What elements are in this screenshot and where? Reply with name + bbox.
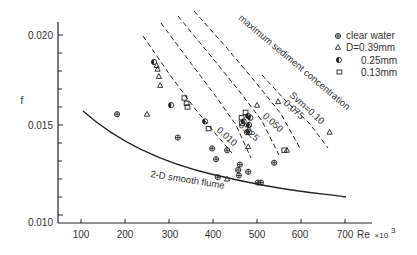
data-points: [114, 59, 332, 185]
smooth-flume-label: 2-D smooth flume: [150, 168, 226, 191]
circle-half-marker-icon: [151, 59, 156, 64]
circle-plus-marker-icon: [114, 112, 119, 117]
circle-half-marker-icon: [202, 119, 207, 124]
triangle-marker-icon: [144, 111, 149, 116]
circle-half-marker-icon: [248, 115, 253, 120]
circle-plus-marker-icon: [272, 160, 277, 165]
legend-label: D=0.39mm: [346, 42, 395, 53]
legend-item-d039: D=0.39mm: [335, 42, 395, 53]
square-marker-icon: [337, 70, 342, 74]
legend-item-d013: 0.13mm: [337, 67, 397, 78]
axes: [58, 22, 372, 223]
x-axis-name: Re: [357, 229, 370, 240]
x-tick-label: 400: [205, 229, 222, 240]
circle-plus-marker-icon: [236, 173, 241, 178]
triangle-marker-icon: [276, 99, 281, 104]
x-tick-label: 500: [249, 229, 266, 240]
circle-half-marker-icon: [169, 103, 174, 108]
x-tick-label: 300: [162, 229, 179, 240]
circle-plus-marker-icon: [175, 135, 180, 140]
x-axis-exponent: 3: [391, 226, 396, 235]
triangle-marker-icon: [156, 74, 161, 79]
legend-item-d025: 0.25mm: [336, 55, 397, 66]
x-axis-label: Re ×10 3: [357, 226, 396, 240]
x-tick-label: 700: [337, 229, 354, 240]
x-axis-suffix: ×10: [375, 231, 389, 240]
iso-label-0.010: 0.010: [215, 124, 240, 148]
circle-plus-marker-icon: [237, 162, 242, 167]
friction-factor-chart: 0.020 0.015 0.010 100 200 300 400 500 60…: [0, 0, 417, 255]
y-tick-label: 0.015: [28, 120, 53, 131]
circle-plus-marker-icon: [335, 33, 340, 38]
triangle-marker-icon: [335, 45, 340, 50]
y-ticks: [58, 35, 63, 215]
circle-plus-marker-icon: [224, 148, 229, 153]
circle-plus-marker-icon: [235, 167, 240, 172]
circle-plus-marker-icon: [246, 169, 251, 174]
triangle-marker-icon: [254, 102, 259, 107]
triangle-marker-icon: [246, 144, 251, 149]
legend-label: clear water: [346, 30, 396, 41]
x-tick-label: 600: [292, 229, 309, 240]
legend-item-clear-water: clear water: [335, 30, 395, 41]
circle-plus-marker-icon: [215, 175, 220, 180]
circle-plus-marker-icon: [258, 180, 263, 185]
circle-plus-marker-icon: [210, 146, 215, 151]
circle-plus-marker-icon: [213, 157, 218, 162]
legend-label: 0.13mm: [361, 67, 397, 78]
x-tick-label: 200: [117, 229, 134, 240]
y-axis-label: f: [21, 95, 24, 106]
iso-label-0.050: 0.050: [261, 110, 286, 134]
y-tick-label: 0.020: [28, 30, 53, 41]
y-tick-label: 0.010: [28, 217, 53, 228]
triangle-marker-icon: [327, 129, 332, 134]
legend: clear water D=0.39mm 0.25mm 0.13mm: [335, 30, 397, 78]
triangle-marker-icon: [158, 83, 163, 88]
legend-label: 0.25mm: [361, 55, 397, 66]
x-tick-label: 100: [73, 229, 90, 240]
